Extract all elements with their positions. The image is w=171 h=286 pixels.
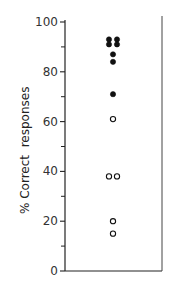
y-tick-label: 100 — [35, 15, 58, 29]
open-circle-marker — [110, 231, 115, 236]
scatter-chart: 020406080100 % Correct responses — [0, 0, 171, 286]
open-circle-marker — [106, 174, 111, 179]
y-axis-ticks: 020406080100 — [35, 15, 65, 278]
open-circle-marker — [114, 174, 119, 179]
y-tick-label: 40 — [43, 164, 58, 178]
filled-circle-marker — [114, 37, 119, 42]
y-tick-label: 20 — [43, 214, 58, 228]
open-circle-marker — [110, 117, 115, 122]
y-tick-label: 0 — [50, 264, 58, 278]
filled-circle-marker — [106, 37, 111, 42]
filled-circle-marker — [114, 42, 119, 47]
open-circle-marker — [110, 219, 115, 224]
filled-circle-marker — [106, 42, 111, 47]
y-axis-label: % Correct responses — [18, 87, 32, 214]
data-points — [106, 37, 119, 236]
filled-circle-marker — [110, 59, 115, 64]
filled-circle-marker — [110, 52, 115, 57]
filled-circle-marker — [110, 92, 115, 97]
y-tick-label: 80 — [43, 65, 58, 79]
y-tick-label: 60 — [43, 115, 58, 129]
